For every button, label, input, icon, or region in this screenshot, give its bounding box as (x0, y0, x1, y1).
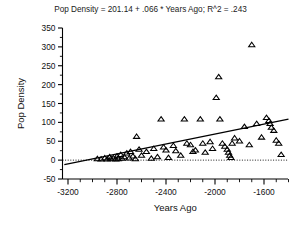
data-point-marker (216, 74, 222, 78)
scatter-plot-figure: Pop Density = 201.14 + .066 * Years Ago;… (0, 0, 301, 225)
y-tick-label: 100 (42, 117, 56, 127)
y-tick-label: 200 (42, 80, 56, 90)
y-tick-label: 300 (42, 42, 56, 52)
y-tick-label: 250 (42, 61, 56, 71)
data-point-marker (209, 146, 215, 150)
x-axis-label: Years Ago (154, 202, 197, 213)
data-point-marker (163, 148, 169, 152)
data-point-marker (173, 148, 179, 152)
data-point-marker (271, 128, 277, 132)
data-point-marker (134, 134, 140, 138)
data-point-marker (246, 142, 252, 146)
data-point-marker (213, 95, 219, 99)
data-point-marker (278, 152, 284, 156)
data-point-marker (202, 150, 208, 154)
data-point-marker (197, 117, 203, 121)
data-point-marker (232, 136, 238, 140)
data-point-marker (276, 141, 282, 145)
data-point-marker (148, 156, 154, 160)
data-point-marker (154, 154, 160, 158)
y-tick-label: 350 (42, 23, 56, 33)
data-point-marker (181, 117, 187, 121)
data-point-marker (143, 149, 149, 153)
data-point-marker (165, 155, 171, 159)
y-axis-label: Pop Density (15, 78, 26, 129)
x-tick-label: -1600 (253, 187, 275, 197)
data-point-marker (207, 139, 213, 143)
data-point-marker (254, 121, 260, 125)
y-tick-label: 0 (51, 155, 56, 165)
x-tick-label: -2000 (204, 187, 226, 197)
data-point-marker (249, 42, 255, 46)
y-tick-label: 50 (46, 136, 56, 146)
plot-canvas: -50050100150200250300350-3200-2800-2400-… (0, 0, 301, 225)
x-tick-label: -2800 (106, 187, 128, 197)
data-point-marker (158, 117, 164, 121)
x-tick-label: -2400 (155, 187, 177, 197)
data-point-marker (200, 141, 206, 145)
data-point-marker (258, 135, 264, 139)
x-tick-label: -3200 (57, 187, 79, 197)
y-tick-label: 150 (42, 99, 56, 109)
data-point-marker (229, 141, 235, 145)
data-point-marker (170, 143, 176, 147)
y-tick-label: -50 (43, 174, 55, 184)
data-point-marker (217, 117, 223, 121)
data-point-marker (178, 153, 184, 157)
data-point-marker (192, 148, 198, 152)
